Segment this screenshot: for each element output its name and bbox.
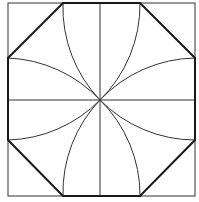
arc-top-right-b (100, 58, 195, 100)
arc-bottom-right-b (100, 100, 140, 196)
arc-top-left-b (8, 58, 100, 100)
arc-bottom-left-a (8, 100, 100, 140)
arc-bottom-right-a (100, 100, 195, 140)
arc-top-right-a (100, 3, 140, 100)
arc-top-left-a (63, 3, 100, 100)
octagon-square-diagram (0, 0, 199, 202)
arc-bottom-left-b (63, 100, 100, 196)
